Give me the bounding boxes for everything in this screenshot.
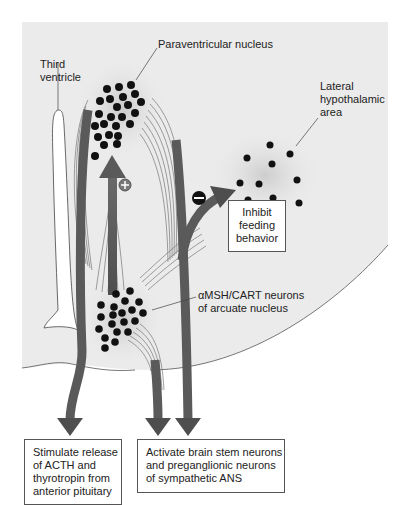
- box-activate-brainstem: Activate brain stem neurons and pregangl…: [137, 439, 285, 493]
- arrow-to-activate-1: [145, 360, 171, 436]
- box-inhibit-feeding: Inhibit feeding behavior: [228, 200, 286, 252]
- label-paraventricular-nucleus: Paraventricular nucleus: [158, 38, 273, 51]
- label-third-ventricle: Third ventricle: [40, 58, 81, 84]
- minus-sign-icon: [192, 191, 206, 205]
- label-arcuate-nucleus: αMSH/CART neurons of arcuate nucleus: [198, 289, 304, 315]
- plus-sign-icon: [119, 179, 131, 191]
- box-stimulate-release: Stimulate release of ACTH and thyrotropi…: [24, 439, 122, 505]
- label-lateral-hypothalamic-area: Lateral hypothalamic area: [320, 80, 385, 119]
